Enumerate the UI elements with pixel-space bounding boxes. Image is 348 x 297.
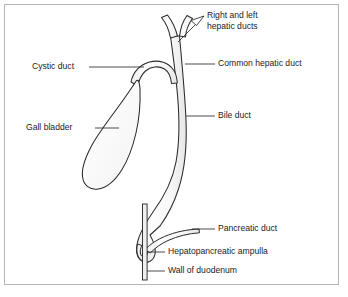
label-pancreatic-duct: Pancreatic duct xyxy=(218,223,278,233)
labels-group: Right and left hepatic ducts Common hepa… xyxy=(26,10,302,275)
wall-of-duodenum-shape xyxy=(143,204,148,280)
label-bile-duct: Bile duct xyxy=(218,110,252,120)
label-wall-of-duodenum: Wall of duodenum xyxy=(168,265,237,275)
hepatic-ducts-arrowhead xyxy=(191,16,204,26)
label-common-hepatic-duct: Common hepatic duct xyxy=(218,58,302,68)
label-gall-bladder: Gall bladder xyxy=(26,122,72,132)
label-right-and-left-hepatic-ducts-line1: Right and left xyxy=(207,10,258,20)
anatomy-group xyxy=(82,15,199,280)
gall-bladder-shape xyxy=(82,80,140,189)
label-cystic-duct: Cystic duct xyxy=(32,61,75,71)
figure-root: Right and left hepatic ducts Common hepa… xyxy=(0,0,348,297)
left-hepatic-duct-branch xyxy=(162,15,178,38)
label-hepatopancreatic-ampulla: Hepatopancreatic ampulla xyxy=(168,246,268,256)
label-right-and-left-hepatic-ducts-line2: hepatic ducts xyxy=(207,21,258,31)
biliary-system-diagram: Right and left hepatic ducts Common hepa… xyxy=(0,0,348,297)
